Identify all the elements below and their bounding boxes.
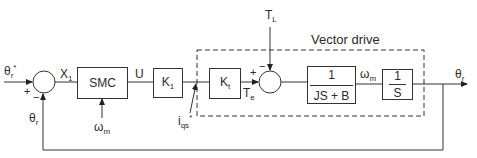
kt-label: Kt [220, 76, 230, 91]
sum1-plus-sign: + [24, 86, 30, 97]
summing-junction-2 [259, 71, 281, 93]
u-label: U [135, 68, 144, 80]
x1-label: X1 [60, 68, 72, 83]
sum2-plus-sign: + [250, 67, 256, 78]
iqs-label: iqs* [178, 114, 192, 130]
vector-drive-label: Vector drive [311, 33, 380, 46]
omega-m-smc-label: ωm [94, 121, 110, 136]
summing-junction-1 [33, 71, 55, 93]
k1-label: K1 [162, 76, 174, 91]
theta-ref-label: θr* [4, 64, 16, 80]
k1-block: K1 [153, 68, 183, 98]
plant-transfer-function: 1 JS + B [310, 68, 354, 103]
integrator-transfer-function: 1 S [389, 69, 405, 100]
plant-block: 1 JS + B [307, 66, 356, 104]
omega-m-label: ωm [360, 68, 376, 83]
tl-label: TL [265, 9, 277, 24]
smc-block: SMC [77, 67, 128, 99]
te-label: Te [243, 87, 255, 102]
smc-label: SMC [89, 76, 116, 90]
sum2-minus-sign: − [259, 61, 265, 72]
sum1-minus-sign: − [33, 92, 39, 103]
theta-out-label: θr [455, 68, 464, 83]
theta-feedback-label: θr [29, 112, 38, 127]
integrator-block: 1 S [382, 69, 413, 100]
kt-block: Kt [209, 68, 241, 99]
